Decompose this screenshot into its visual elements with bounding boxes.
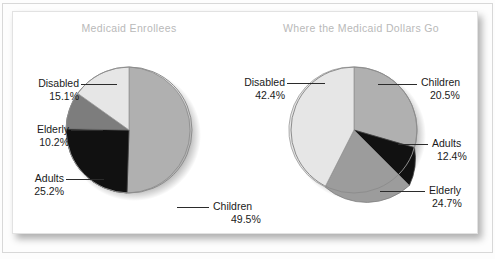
pie-label-name: Adults — [432, 137, 461, 149]
leader-line-elderly-dollars — [380, 191, 425, 192]
pie-label-pct: 24.7% — [429, 197, 491, 210]
pie-slice-adults-enrollees — [66, 129, 129, 193]
pie-label-adults-dollars: Adults 12.4% — [432, 137, 494, 162]
pie-label-elderly-dollars: Elderly 24.7% — [429, 184, 491, 209]
leader-line-children-enrollees — [177, 207, 209, 208]
pie-label-elderly-enrollees: Elderly 10.2% — [3, 123, 69, 148]
leader-line-adults-dollars — [398, 144, 428, 145]
figure-root: Medicaid Enrollees — [0, 0, 495, 259]
pie-label-name: Children — [421, 76, 460, 88]
leader-line-children-dollars — [378, 84, 417, 85]
pie-label-pct: 25.2% — [1, 185, 64, 198]
pie-label-pct: 20.5% — [421, 89, 491, 102]
page-border-bottom — [2, 252, 493, 253]
leader-line-disabled-enrollees — [81, 84, 117, 85]
pie-label-name: Disabled — [244, 76, 285, 88]
pie-label-name: Adults — [35, 172, 64, 184]
pie-label-adults-enrollees: Adults 25.2% — [1, 172, 64, 197]
pie-label-disabled-dollars: Disabled 42.4% — [207, 76, 285, 101]
pie-label-pct: 12.4% — [432, 150, 494, 163]
pie-label-name: Elderly — [429, 184, 461, 196]
leader-line-adults-enrollees — [66, 179, 104, 180]
chart-where-the-medicaid-dollars-go: Where the Medicaid Dollars Go — [245, 12, 477, 233]
page-border-top — [2, 3, 493, 4]
leader-line-elderly-enrollees — [71, 130, 103, 131]
page-border-right — [492, 3, 493, 253]
chart-medicaid-enrollees: Medicaid Enrollees — [13, 12, 245, 233]
pie-label-name: Disabled — [38, 77, 79, 89]
pie-label-name: Elderly — [37, 123, 69, 135]
chart-title-dollars: Where the Medicaid Dollars Go — [245, 22, 477, 34]
pie-label-pct: 10.2% — [3, 136, 69, 149]
chart-panel: Medicaid Enrollees — [12, 11, 478, 234]
pie-label-pct: 42.4% — [207, 89, 285, 102]
chart-title-enrollees: Medicaid Enrollees — [13, 22, 245, 34]
pie-label-disabled-enrollees: Disabled 15.1% — [3, 77, 79, 102]
leader-line-disabled-dollars — [287, 83, 325, 84]
pie-label-children-dollars: Children 20.5% — [421, 76, 491, 101]
pie-label-pct: 15.1% — [3, 90, 79, 103]
